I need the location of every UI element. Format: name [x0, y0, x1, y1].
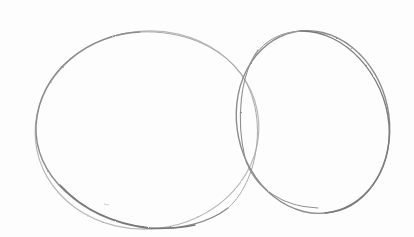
sketch-drawing	[0, 0, 414, 237]
stray-mark	[104, 204, 109, 205]
sketch-canvas: Pencil sketch of two overlapping ovals o…	[0, 0, 414, 237]
right-oval	[220, 16, 407, 228]
left-oval	[25, 20, 268, 237]
